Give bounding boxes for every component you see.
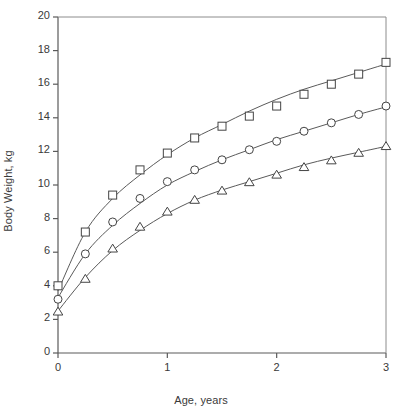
data-point-circle	[218, 156, 226, 164]
data-point-triangle	[190, 195, 200, 203]
data-point-square	[136, 166, 144, 174]
data-point-square	[273, 102, 281, 110]
data-point-circle	[136, 194, 144, 202]
y-tick-label: 18	[20, 43, 50, 55]
data-markers-group	[53, 58, 391, 315]
data-point-square	[109, 191, 117, 199]
y-tick-label: 8	[20, 211, 50, 223]
data-point-square	[54, 282, 62, 290]
data-point-circle	[54, 295, 62, 303]
x-tick-label: 1	[155, 361, 179, 373]
data-point-square	[163, 149, 171, 157]
y-tick-label: 10	[20, 177, 50, 189]
data-point-square	[245, 112, 253, 120]
axes-group	[58, 17, 386, 353]
data-point-square	[382, 58, 390, 66]
y-tick-label: 2	[20, 311, 50, 323]
y-tick-label: 20	[20, 9, 50, 21]
data-point-triangle	[245, 178, 255, 186]
data-point-circle	[163, 178, 171, 186]
data-point-triangle	[135, 222, 145, 230]
data-point-circle	[81, 250, 89, 258]
fit-curve-circle	[58, 107, 386, 298]
plot-canvas	[0, 0, 402, 418]
tick-marks-group	[53, 17, 386, 358]
data-point-square	[191, 134, 199, 142]
data-point-triangle	[53, 307, 63, 315]
body-weight-growth-chart: Age, years Body Weight, kg 0246810121416…	[0, 0, 402, 418]
data-point-circle	[300, 127, 308, 135]
y-tick-label: 16	[20, 76, 50, 88]
data-point-circle	[273, 137, 281, 145]
data-point-circle	[355, 110, 363, 118]
fit-curve-square	[58, 64, 386, 291]
data-point-triangle	[354, 148, 364, 156]
data-point-circle	[327, 119, 335, 127]
data-point-circle	[109, 218, 117, 226]
data-point-triangle	[217, 186, 227, 194]
data-point-triangle	[81, 274, 91, 282]
data-point-square	[355, 70, 363, 78]
x-tick-label: 2	[265, 361, 289, 373]
y-axis-title: Body Weight, kg	[2, 111, 14, 271]
y-tick-label: 6	[20, 244, 50, 256]
data-point-circle	[382, 102, 390, 110]
x-axis-title: Age, years	[0, 394, 402, 406]
data-point-circle	[245, 146, 253, 154]
data-point-square	[300, 90, 308, 98]
data-point-square	[327, 80, 335, 88]
data-point-triangle	[163, 207, 173, 215]
data-point-square	[218, 122, 226, 130]
data-point-triangle	[381, 142, 391, 150]
fit-curve-triangle	[58, 146, 386, 311]
y-tick-label: 0	[20, 345, 50, 357]
x-tick-label: 0	[46, 361, 70, 373]
x-tick-label: 3	[374, 361, 398, 373]
y-tick-label: 14	[20, 110, 50, 122]
data-point-square	[81, 228, 89, 236]
y-tick-label: 12	[20, 143, 50, 155]
data-point-circle	[191, 166, 199, 174]
y-tick-label: 4	[20, 278, 50, 290]
